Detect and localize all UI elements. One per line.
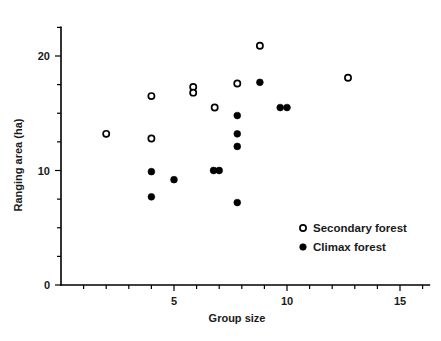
axis-group: 51015 01020	[38, 27, 430, 307]
legend: Secondary forest Climax forest	[300, 222, 407, 253]
data-point	[284, 104, 291, 111]
legend-label-secondary-forest: Secondary forest	[313, 222, 407, 234]
y-axis-tick-labels: 01020	[38, 50, 50, 291]
data-point	[216, 167, 223, 174]
legend-marker-secondary-forest-icon	[300, 225, 306, 231]
data-point	[190, 90, 196, 96]
x-axis-label: Group size	[209, 312, 266, 324]
data-point	[212, 104, 218, 110]
x-tick-label: 5	[171, 295, 177, 307]
y-tick-label: 10	[38, 165, 50, 177]
legend-marker-climax-forest-icon	[300, 244, 307, 251]
legend-label-climax-forest: Climax forest	[313, 241, 386, 253]
data-point	[148, 168, 155, 175]
data-points-group	[103, 43, 351, 206]
data-point	[171, 176, 178, 183]
data-point	[234, 80, 240, 86]
series-secondary-forest	[103, 43, 351, 142]
data-point	[103, 131, 109, 137]
data-point	[234, 199, 241, 206]
plot-canvas: 51015 01020 Group size Ranging area (ha)…	[0, 0, 441, 341]
data-point	[234, 130, 241, 137]
data-point	[148, 193, 155, 200]
series-climax-forest	[148, 79, 290, 206]
x-axis-ticks	[84, 285, 423, 291]
data-point	[277, 104, 284, 111]
y-axis-label: Ranging area (ha)	[12, 118, 24, 211]
scatter-plot-figure: 51015 01020 Group size Ranging area (ha)…	[0, 0, 441, 341]
data-point	[148, 135, 154, 141]
data-point	[257, 43, 263, 49]
data-point	[345, 75, 351, 81]
data-point	[256, 79, 263, 86]
y-tick-label: 0	[44, 279, 50, 291]
x-tick-label: 15	[394, 295, 406, 307]
data-point	[234, 143, 241, 150]
data-point	[148, 93, 154, 99]
data-point	[234, 112, 241, 119]
y-tick-label: 20	[38, 50, 50, 62]
y-axis-ticks	[55, 27, 61, 285]
x-tick-label: 10	[281, 295, 293, 307]
x-axis-tick-labels: 51015	[171, 295, 406, 307]
